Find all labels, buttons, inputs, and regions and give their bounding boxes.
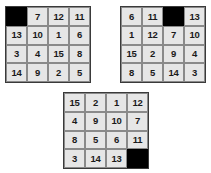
puzzle-blank-cell — [6, 7, 27, 26]
puzzle-tile[interactable]: 12 — [142, 26, 163, 45]
puzzle-tile[interactable]: 3 — [64, 149, 85, 168]
puzzle-tile[interactable]: 15 — [64, 93, 85, 112]
puzzle-tile[interactable]: 9 — [27, 63, 48, 82]
puzzle-tile[interactable]: 1 — [106, 93, 127, 112]
puzzle-tile[interactable]: 10 — [27, 26, 48, 45]
puzzle-tile[interactable]: 14 — [163, 63, 184, 82]
puzzle-tile[interactable]: 13 — [6, 26, 27, 45]
puzzle-bottom[interactable]: 152112491078561131413 — [63, 92, 149, 169]
puzzle-tile[interactable]: 3 — [184, 63, 205, 82]
puzzle-tile[interactable]: 5 — [85, 131, 106, 150]
puzzle-tile[interactable]: 10 — [106, 112, 127, 131]
puzzle-tile[interactable]: 12 — [48, 7, 69, 26]
puzzle-tile[interactable]: 8 — [121, 63, 142, 82]
puzzle-tile[interactable]: 2 — [142, 45, 163, 64]
puzzle-tile[interactable]: 8 — [64, 131, 85, 150]
puzzle-tile[interactable]: 9 — [85, 112, 106, 131]
puzzle-tile[interactable]: 15 — [48, 45, 69, 64]
puzzle-tile[interactable]: 6 — [106, 131, 127, 150]
puzzle-tile[interactable]: 14 — [6, 63, 27, 82]
puzzle-tile[interactable]: 2 — [48, 63, 69, 82]
puzzle-blank-cell — [127, 149, 148, 168]
puzzle-tile[interactable]: 1 — [48, 26, 69, 45]
puzzle-tile[interactable]: 10 — [184, 26, 205, 45]
puzzle-tile[interactable]: 11 — [127, 131, 148, 150]
puzzle-tile[interactable]: 6 — [69, 26, 90, 45]
puzzle-tile[interactable]: 8 — [69, 45, 90, 64]
puzzle-tile[interactable]: 14 — [85, 149, 106, 168]
puzzle-tile[interactable]: 4 — [64, 112, 85, 131]
puzzle-tile[interactable]: 13 — [106, 149, 127, 168]
puzzle-tile[interactable]: 11 — [142, 7, 163, 26]
puzzle-tile[interactable]: 1 — [121, 26, 142, 45]
puzzle-blank-cell — [163, 7, 184, 26]
puzzle-tile[interactable]: 7 — [27, 7, 48, 26]
puzzle-right[interactable]: 611131127101529485143 — [120, 6, 206, 83]
puzzle-tile[interactable]: 9 — [163, 45, 184, 64]
puzzle-left[interactable]: 712111310163415814925 — [5, 6, 91, 83]
puzzle-tile[interactable]: 12 — [127, 93, 148, 112]
puzzle-tile[interactable]: 4 — [27, 45, 48, 64]
puzzle-tile[interactable]: 5 — [69, 63, 90, 82]
puzzle-tile[interactable]: 4 — [184, 45, 205, 64]
puzzle-tile[interactable]: 7 — [127, 112, 148, 131]
puzzle-tile[interactable]: 5 — [142, 63, 163, 82]
puzzle-tile[interactable]: 2 — [85, 93, 106, 112]
puzzle-tile[interactable]: 15 — [121, 45, 142, 64]
puzzle-tile[interactable]: 3 — [6, 45, 27, 64]
puzzle-tile[interactable]: 11 — [69, 7, 90, 26]
puzzle-tile[interactable]: 13 — [184, 7, 205, 26]
puzzle-tile[interactable]: 7 — [163, 26, 184, 45]
puzzle-tile[interactable]: 6 — [121, 7, 142, 26]
